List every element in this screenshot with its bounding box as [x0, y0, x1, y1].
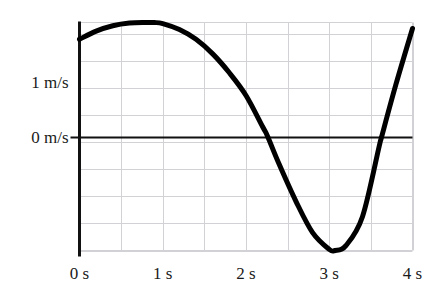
- chart-canvas: [0, 0, 443, 294]
- x-tick-label-3-s: 3 s: [320, 265, 339, 282]
- x-tick-label-1-s: 1 s: [153, 265, 172, 282]
- velocity-time-chart: 0 m/s1 m/s 0 s1 s2 s3 s4 s: [0, 0, 443, 294]
- x-tick-label-0-s: 0 s: [70, 265, 89, 282]
- y-tick-label-1-m-s: 1 m/s: [8, 74, 69, 91]
- x-tick-label-2-s: 2 s: [236, 265, 255, 282]
- x-tick-label-4-s: 4 s: [403, 265, 422, 282]
- y-tick-label-0-m-s: 0 m/s: [8, 128, 69, 145]
